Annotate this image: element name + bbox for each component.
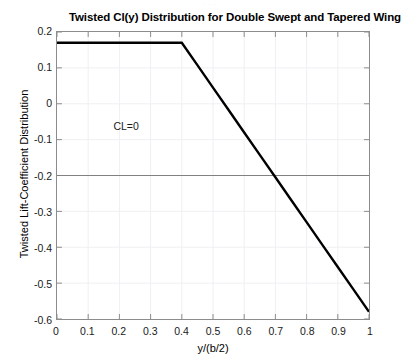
chart-figure: · · · Twisted Cl(y) Distribution for Dou… xyxy=(0,0,420,363)
y-tick-label: -0.1 xyxy=(18,133,52,145)
y-tick-label: -0.2 xyxy=(18,170,52,182)
x-axis-label: y/(b/2) xyxy=(56,342,370,354)
y-tick-label: 0.2 xyxy=(18,25,52,37)
plot-annotation: CL=0 xyxy=(113,120,138,132)
x-tick-label: 1 xyxy=(350,325,390,337)
y-tick-label: 0.1 xyxy=(18,61,52,73)
x-axis-tick-labels: 00.10.20.30.40.50.60.70.80.91 xyxy=(56,325,370,341)
y-tick-label: -0.4 xyxy=(18,242,52,254)
y-tick-label: 0 xyxy=(18,97,52,109)
chart-title: Twisted Cl(y) Distribution for Double Sw… xyxy=(56,11,414,23)
plot-area: CL=0 xyxy=(56,31,370,320)
top-remnant-text: · · · xyxy=(0,0,420,9)
y-tick-label: -0.5 xyxy=(18,278,52,290)
plot-canvas xyxy=(57,32,369,319)
y-tick-label: -0.3 xyxy=(18,206,52,218)
y-axis-tick-labels: 0.20.10-0.1-0.2-0.3-0.4-0.5-0.6 xyxy=(14,31,52,320)
